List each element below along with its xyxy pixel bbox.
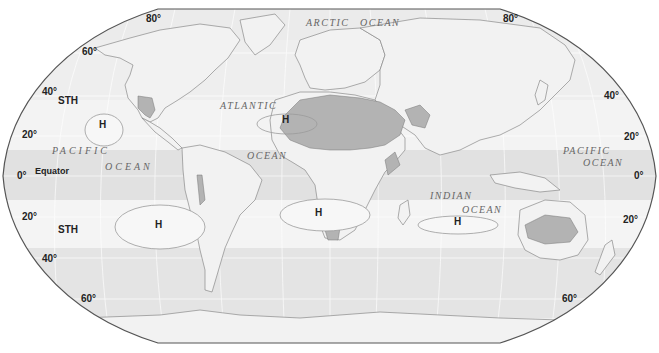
lat-label-right-80: 80° <box>503 14 518 24</box>
lat-label-right-20n: 20° <box>624 132 639 142</box>
ocean-label-pacific-east-2: OCEAN <box>583 158 623 168</box>
ocean-label-atlantic-1: ATLANTIC <box>220 101 277 111</box>
ocean-label-pacific-east-1: PACIFIC <box>563 146 611 156</box>
h-label-south-atlantic: H <box>315 208 322 218</box>
lat-label-right-0: 0° <box>634 171 644 181</box>
h-label-north-pacific: H <box>99 120 106 130</box>
ocean-label-indian-1: INDIAN <box>430 191 472 201</box>
lat-label-left-80: 80° <box>146 14 161 24</box>
lat-label-left-20s: 20° <box>22 212 37 222</box>
h-label-north-atlantic: H <box>282 115 289 125</box>
lat-label-left-40s: 40° <box>42 254 57 264</box>
lat-label-left-60s: 60° <box>81 294 96 304</box>
lat-label-right-40: 40° <box>604 91 619 101</box>
sth-label-south: STH <box>58 225 78 235</box>
lat-label-left-0: 0° <box>17 171 27 181</box>
h-cell-south-atlantic <box>280 199 370 231</box>
ocean-label-pacific-west-1: PACIFIC <box>52 146 110 156</box>
lat-label-left-20n: 20° <box>22 130 37 140</box>
ocean-label-arctic-1: ARCTIC <box>306 18 349 28</box>
lat-label-left-40: 40° <box>42 87 57 97</box>
equator-label: Equator <box>35 167 69 176</box>
lat-label-right-60s: 60° <box>562 294 577 304</box>
h-label-indian: H <box>454 217 461 227</box>
lat-label-left-60: 60° <box>82 47 97 57</box>
ocean-label-indian-2: OCEAN <box>462 205 502 215</box>
ocean-label-atlantic-2: OCEAN <box>247 151 287 161</box>
ocean-label-arctic-2: OCEAN <box>360 18 400 28</box>
sth-label-north: STH <box>58 96 78 106</box>
ocean-label-pacific-west-2: OCEAN <box>105 162 153 172</box>
world-map <box>0 0 659 353</box>
h-label-south-pacific: H <box>155 220 162 230</box>
lat-label-right-20s: 20° <box>623 215 638 225</box>
